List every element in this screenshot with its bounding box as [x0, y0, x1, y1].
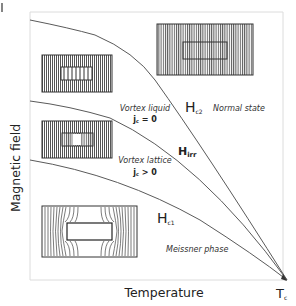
- normal-state-label: Normal state: [213, 104, 265, 113]
- hc2-label: Hc2: [185, 99, 203, 115]
- normal-state-inset: [157, 24, 253, 75]
- hc1-label: Hc1: [157, 210, 175, 226]
- y-axis-label: Magnetic field: [8, 124, 23, 212]
- vortex-lattice-condition: jc > 0: [132, 168, 157, 177]
- x-axis-label: Temperature: [123, 285, 203, 300]
- meissner-inset: [42, 206, 137, 257]
- vortex-liquid-inset: [42, 55, 112, 92]
- hirr-label: Hirr: [178, 145, 197, 159]
- vortex-liquid-label: Vortex liquid: [120, 104, 171, 113]
- tc-label: Tc: [275, 286, 287, 301]
- vortex-liquid-condition: jc = 0: [132, 115, 157, 124]
- vortex-lattice-inset: [42, 121, 112, 158]
- meissner-phase-label: Meissner phase: [166, 245, 228, 254]
- phase-diagram: Magnetic field Temperature Tc Hc2 Normal…: [0, 0, 296, 306]
- vortex-lattice-label: Vortex lattice: [118, 156, 172, 165]
